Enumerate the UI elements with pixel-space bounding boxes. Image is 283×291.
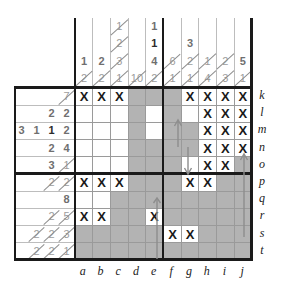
clue-number: 2 [44,208,59,225]
clue-empty [163,35,181,52]
frame-col-right [250,18,252,88]
clue-empty [14,140,29,157]
clue-active: 2 [98,55,104,67]
clue-struck: 2 [151,72,157,84]
row-clue-row: 22 [14,105,74,122]
clue-empty [14,174,29,191]
clue-struck: 1 [240,72,246,84]
row-clue-row: 22 [14,174,74,191]
clue-active: 4 [63,142,69,154]
clue-number: 2 [59,105,74,122]
row-label-row: k [253,87,271,104]
clue-empty [14,191,29,208]
clue-struck: 10 [131,72,143,84]
row-clue-row: 8 [14,191,74,208]
clue-struck: 1 [187,72,193,84]
clue-number: 3 [14,122,29,139]
clue-number: 2 [93,53,111,70]
row-axis-labels: klmnopqrst [253,87,271,259]
clue-empty [217,18,235,35]
clue-empty [75,35,93,52]
clue-empty [44,191,59,208]
row-clue-row: 24 [14,140,74,157]
clue-struck: 2 [98,72,104,84]
clue-empty [128,35,146,52]
clue-empty [29,105,44,122]
clue-empty [217,35,235,52]
row-label-row: q [253,190,271,207]
clue-empty [29,191,44,208]
clue-number: 2 [75,70,93,87]
column-label-i: i [216,262,234,280]
clue-number: 2 [110,35,128,52]
clue-number: 3 [110,53,128,70]
clue-number: 2 [181,53,199,70]
clue-empty [93,35,111,52]
clue-number: 1 [110,18,128,35]
clue-empty [29,208,44,225]
clue-empty [181,18,199,35]
frame-col-mid [162,18,164,88]
column-label-c: c [109,262,127,280]
nonogram-puzzle: 1121312346212522110211431 72231122431228… [0,0,283,291]
clue-struck: 1 [116,72,122,84]
clue-struck: 2 [116,37,122,49]
clue-active: 3 [48,159,54,171]
clue-empty [128,53,146,70]
clue-number: 1 [146,35,164,52]
clue-struck: 3 [63,228,69,240]
clue-active: 2 [63,124,69,136]
column-label-b: b [92,262,110,280]
column-label-d: d [127,262,145,280]
clue-number: 2 [146,70,164,87]
clue-active: 3 [18,124,24,136]
row-label-row: s [253,225,271,242]
row-label-n: n [253,139,271,156]
clue-number: 4 [146,53,164,70]
clue-active: 1 [33,124,39,136]
clue-struck: 1 [205,55,211,67]
clue-number: 7 [59,88,74,105]
row-clue-row: 3112 [14,122,74,139]
clue-struck: 2 [187,55,193,67]
row-label-o: o [253,156,271,173]
clue-number: 4 [199,70,217,87]
clue-number: 1 [110,70,128,87]
clue-active: 1 [81,55,87,67]
clue-empty [93,18,111,35]
clue-struck: 6 [169,55,175,67]
clue-number: 1 [44,122,59,139]
clue-struck: 2 [81,72,87,84]
clue-number: 2 [93,70,111,87]
column-label-a: a [74,262,92,280]
clue-number: 2 [217,53,235,70]
clue-number: 10 [128,70,146,87]
clue-struck: 2 [48,228,54,240]
clue-struck: 2 [48,245,54,257]
clue-struck: 3 [222,72,228,84]
row-label-p: p [253,173,271,190]
clue-empty [14,208,29,225]
clue-number: 4 [59,140,74,157]
clue-empty [29,140,44,157]
clue-number: 1 [199,53,217,70]
clue-empty [75,18,93,35]
column-label-f: f [162,262,180,280]
clue-active: 1 [48,124,54,136]
clue-number: 1 [75,53,93,70]
clue-struck: 2 [48,176,54,188]
row-label-k: k [253,87,271,104]
clue-struck: 1 [63,159,69,171]
clue-struck: 7 [63,90,69,102]
row-label-q: q [253,190,271,207]
clue-empty [128,18,146,35]
clue-active: 2 [48,107,54,119]
clue-number: 5 [59,208,74,225]
clue-active: 2 [48,142,54,154]
clue-struck: 5 [63,210,69,222]
row-label-r: r [253,207,271,224]
clue-number: 2 [44,174,59,191]
clue-empty [199,18,217,35]
clue-number: 6 [163,53,181,70]
row-label-row: r [253,207,271,224]
